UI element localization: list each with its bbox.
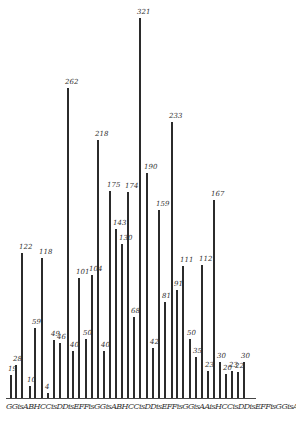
bar-value-label: 30 [217, 352, 226, 360]
data-bar [243, 362, 245, 398]
bar-value-label: 159 [156, 200, 169, 208]
bar-value-label: 50 [187, 329, 196, 337]
data-bar [29, 386, 31, 398]
data-bar [225, 374, 227, 398]
bar-value-label: 143 [113, 219, 126, 227]
bar-value-label: 175 [107, 181, 120, 189]
data-bar [10, 375, 12, 398]
data-bar [103, 351, 105, 398]
bar-value-label: 46 [57, 333, 66, 341]
data-bar [41, 258, 43, 398]
bar-value-label: 4 [45, 383, 49, 391]
data-bar [97, 140, 99, 398]
bar-value-label: 218 [95, 130, 108, 138]
data-bar [207, 371, 209, 398]
data-bar [152, 348, 154, 398]
bar-value-label: 167 [211, 190, 224, 198]
data-bar [78, 278, 80, 398]
bar-value-label: 262 [65, 78, 78, 86]
data-bar [171, 122, 173, 398]
bar-value-label: 104 [89, 265, 102, 273]
data-bar [59, 343, 61, 398]
bar-value-label: 81 [162, 292, 171, 300]
bar-value-label: 190 [144, 163, 157, 171]
data-bar [146, 173, 148, 398]
data-bar [72, 351, 74, 398]
x-axis-line [6, 398, 256, 399]
data-bar [231, 371, 233, 398]
data-bar [133, 317, 135, 398]
data-bar [182, 266, 184, 398]
data-bar [158, 210, 160, 398]
data-bar [85, 339, 87, 398]
data-bar [127, 192, 129, 398]
data-bar [53, 340, 55, 398]
bar-value-label: 111 [180, 256, 193, 264]
bar-value-label: 118 [39, 248, 52, 256]
data-bar [164, 302, 166, 398]
data-bar [195, 357, 197, 398]
data-bar [34, 328, 36, 398]
data-bar [213, 200, 215, 398]
data-bar [139, 18, 141, 398]
data-bar [176, 290, 178, 398]
bar-value-label: 101 [76, 268, 89, 276]
bar-value-label: 321 [137, 8, 150, 16]
x-axis-note-labels: GGisABHCCisDDisEFFisGGisABHCCisDDisEFFis… [6, 402, 296, 411]
data-bar [115, 229, 117, 398]
data-bar [121, 244, 123, 398]
bar-value-label: 122 [19, 243, 32, 251]
bar-value-label: 112 [199, 255, 212, 263]
data-bar [201, 265, 203, 398]
data-bar [67, 88, 69, 398]
data-bar [91, 275, 93, 398]
data-bar [237, 372, 239, 398]
bar-value-label: 174 [125, 182, 138, 190]
bar-value-label: 59 [32, 318, 41, 326]
data-bar [47, 393, 49, 398]
bar-value-label: 233 [169, 112, 182, 120]
note-frequency-chart: GGisABHCCisDDisEFFisGGisABHCCisDDisEFFis… [0, 0, 296, 429]
data-bar [109, 191, 111, 398]
bar-value-label: 30 [241, 352, 250, 360]
data-bar [219, 362, 221, 398]
data-bar [21, 253, 23, 398]
data-bar [15, 365, 17, 398]
bar-value-label: 130 [119, 234, 132, 242]
data-bar [189, 339, 191, 398]
